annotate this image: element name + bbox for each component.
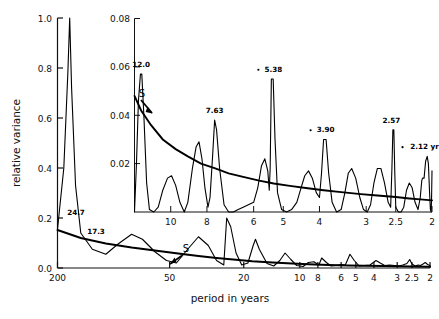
inset-peak-dot-3 — [309, 129, 311, 131]
main-ytick-5: 1.0 — [38, 14, 53, 24]
inset-peak-label-1: 7.63 — [206, 106, 224, 115]
inset-xtick-label-2: 6 — [251, 217, 257, 227]
inset-xtick-label-1: 8 — [204, 217, 210, 227]
main-ytick-3: 0.6 — [38, 114, 53, 124]
inset-x-ticks — [171, 206, 432, 212]
inset-spectrum-curve — [135, 74, 433, 212]
inset-xtick-label-0: 10 — [165, 217, 177, 227]
main-spectrum-curve — [58, 18, 431, 267]
inset-smooth-curve — [135, 96, 433, 200]
inset-peak-label-4: 2.57 — [382, 116, 400, 125]
inset-ytick-0: 0.02 — [110, 159, 130, 169]
inset-peak-label-5: 2.12 yr — [410, 142, 439, 151]
main-xtick-label-2: 20 — [238, 273, 250, 283]
spectrum-figure: 0.0 0.2 0.4 0.6 0.8 1.0 relative varianc… — [0, 0, 439, 319]
inset-xtick-label-3: 5 — [280, 217, 286, 227]
inset-ytick-2: 0.06 — [110, 62, 130, 72]
inset-x-tick-labels: 10865432.52 — [165, 217, 435, 227]
main-xtick-label-8: 3 — [394, 273, 400, 283]
inset-peak-dot-5 — [401, 146, 403, 148]
inset-peak-label-0: 12.0 — [132, 60, 150, 69]
main-xtick-label-3: 10 — [294, 273, 306, 283]
main-ytick-1: 0.2 — [38, 214, 52, 224]
x-axis-title: period in years — [191, 292, 270, 304]
main-xtick-label-0: 200 — [49, 273, 66, 283]
main-x-tick-labels: 200502010865432.52 — [49, 273, 433, 283]
inset-peak-label-2: 5.38 — [264, 65, 282, 74]
main-peak-label-17-3: 17.3 — [87, 227, 105, 236]
inset-xtick-label-4: 4 — [317, 217, 323, 227]
main-xtick-label-7: 4 — [371, 273, 377, 283]
inset-panel: 0.08 0.06 0.04 0.02 10865432.52 12.07.63… — [110, 14, 439, 227]
y-axis-title: relative variance — [10, 99, 22, 187]
inset-ytick-1: 0.04 — [110, 111, 130, 121]
main-xtick-label-6: 5 — [353, 273, 359, 283]
inset-peak-annotation-0: 12.0 — [132, 60, 150, 69]
inset-peak-annotation-5: 2.12 yr — [401, 142, 439, 151]
main-xtick-label-5: 6 — [338, 273, 344, 283]
inset-s-label: S — [139, 88, 145, 99]
main-xtick-label-4: 8 — [315, 273, 321, 283]
main-xtick-label-10: 2 — [427, 273, 433, 283]
main-panel: 0.0 0.2 0.4 0.6 0.8 1.0 relative varianc… — [10, 14, 433, 305]
inset-xtick-label-7: 2 — [429, 217, 435, 227]
main-peak-label-24-7: 24.7 — [67, 208, 85, 217]
inset-peak-label-3: 3.90 — [317, 125, 335, 134]
inset-peak-annotation-2: 5.38 — [257, 65, 282, 74]
main-ytick-0: 0.0 — [38, 264, 53, 274]
main-xtick-label-9: 2.5 — [405, 273, 419, 283]
inset-xtick-label-6: 2.5 — [389, 217, 403, 227]
main-s-label: S — [183, 243, 189, 254]
main-ytick-2: 0.4 — [38, 164, 53, 174]
inset-peak-dot-2 — [257, 69, 259, 71]
inset-peak-annotation-3: 3.90 — [309, 125, 334, 134]
inset-peak-annotation-1: 7.63 — [206, 106, 224, 115]
main-ytick-4: 0.8 — [38, 64, 53, 74]
inset-xtick-label-5: 3 — [363, 217, 369, 227]
main-xtick-label-1: 50 — [164, 273, 176, 283]
inset-ytick-3: 0.08 — [110, 14, 130, 24]
inset-peak-annotation-4: 2.57 — [382, 116, 400, 125]
